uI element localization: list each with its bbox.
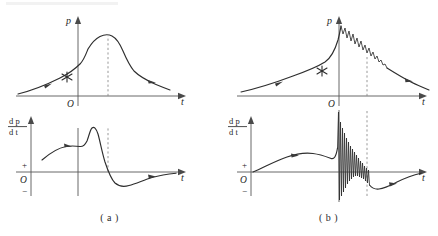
b-bottom-plus-label: + [242, 160, 247, 170]
a-bottom-t-label: t [181, 172, 184, 183]
a-bottom-dpdt-label: d p d t [8, 116, 27, 137]
panel-b-caption: ( b ) [219, 212, 438, 223]
a-bottom-derivative-curve [42, 127, 176, 186]
b-bottom-lead-curve [253, 148, 338, 172]
subplot-b-top: p t O [237, 15, 429, 109]
subplot-a-bottom: d p d t t O + − [8, 116, 186, 196]
b-bottom-dpdt-denominator: d t [229, 127, 238, 137]
a-top-star-marker [62, 72, 72, 82]
b-bottom-dpdt-label: d p d t [228, 116, 247, 137]
b-top-pressure-decay [387, 68, 429, 90]
a-bottom-y-axis-arrowhead [28, 116, 34, 124]
b-top-p-label: p [326, 15, 332, 26]
panel-a-caption: ( a ) [0, 212, 219, 223]
b-top-pressure-rise [241, 26, 341, 92]
panel-a: p t O [0, 0, 219, 236]
b-bottom-minus-label: − [242, 186, 247, 196]
b-bottom-dpdt-numerator: d p [229, 116, 240, 126]
b-top-p-axis-arrowhead [336, 16, 342, 24]
a-top-flow-arrow-2 [148, 80, 156, 84]
panel-b: p t O [219, 0, 438, 236]
subplot-b-bottom: d p d t t O + − [228, 110, 427, 202]
b-bottom-t-label: t [422, 172, 425, 183]
b-bottom-oscillation [338, 112, 370, 200]
b-bottom-origin-label: O [240, 175, 247, 185]
b-top-flow-arrow-2 [405, 78, 413, 82]
subplot-a-top: p t O [16, 15, 186, 109]
a-top-t-label: t [181, 96, 184, 107]
a-bottom-origin-label: O [20, 175, 27, 185]
a-top-p-label: p [65, 15, 71, 26]
a-bottom-flow-arrow [64, 144, 72, 148]
a-bottom-dpdt-denominator: d t [9, 127, 18, 137]
a-bottom-dpdt-numerator: d p [9, 116, 20, 126]
figure-root: p t O [0, 0, 438, 236]
a-top-pressure-curve [18, 35, 170, 94]
panel-a-plots: p t O [0, 0, 219, 212]
a-bottom-minus-label: − [22, 186, 27, 196]
panel-b-plots: p t O [219, 0, 438, 212]
a-top-p-axis-arrowhead [75, 16, 81, 24]
b-top-origin-label: O [328, 99, 335, 109]
b-top-t-label: t [422, 96, 425, 107]
a-top-origin-label: O [67, 99, 74, 109]
b-bottom-recovery-curve [370, 173, 422, 189]
b-top-oscillation [341, 26, 387, 68]
b-bottom-y-axis-arrowhead [248, 116, 254, 124]
a-bottom-plus-label: + [22, 160, 27, 170]
b-top-star-marker [317, 66, 327, 76]
